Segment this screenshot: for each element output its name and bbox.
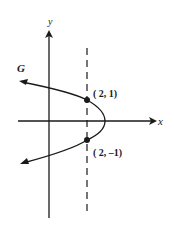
point-2-neg1 (84, 137, 90, 143)
curve-arrow-upper-icon (19, 79, 28, 85)
point-label-upper: ( 2, 1) (93, 88, 117, 100)
point-2-1 (84, 97, 90, 103)
x-axis-label: x (157, 115, 163, 127)
y-axis-label: y (47, 16, 53, 27)
curve-label: G (17, 62, 25, 74)
graph-figure: y x G ( 2, 1) ( 2, –1) (0, 0, 174, 232)
curve-arrow-lower-icon (20, 158, 29, 164)
point-label-lower: ( 2, –1) (93, 147, 122, 159)
